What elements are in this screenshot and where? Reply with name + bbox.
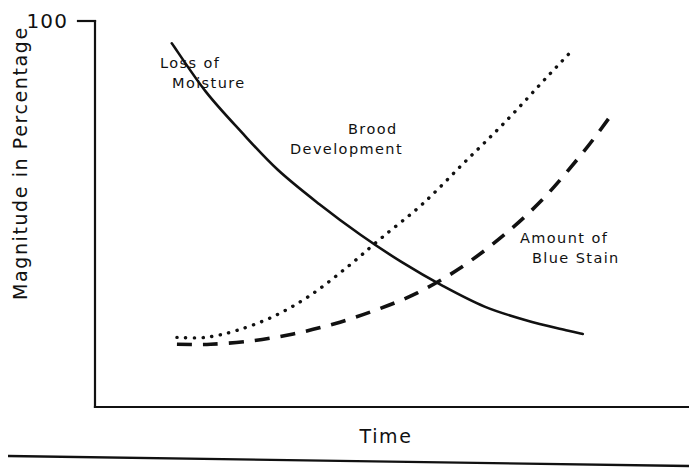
- chart-figure: 100 Loss ofMoistureBroodDevelopmentAmoun…: [0, 0, 689, 476]
- chart-axes: [78, 21, 689, 407]
- page-divider-rule: [8, 456, 689, 466]
- series-label-amount-of-blue-stain: Amount ofBlue Stain: [520, 230, 620, 266]
- series-label-line: Amount of: [520, 230, 608, 246]
- series-label-line: Brood: [348, 121, 398, 137]
- series-label-line: Blue Stain: [532, 250, 620, 266]
- chart-canvas: 100 Loss ofMoistureBroodDevelopmentAmoun…: [0, 0, 689, 476]
- chart-series-labels: Loss ofMoistureBroodDevelopmentAmount of…: [160, 55, 620, 266]
- series-label-line: Moisture: [172, 75, 246, 91]
- series-label-line: Development: [290, 141, 403, 157]
- y-axis-title: Magnitude in Percentage: [9, 26, 31, 300]
- series-label-brood-development: BroodDevelopment: [290, 121, 403, 157]
- series-label-loss-of-moisture: Loss ofMoisture: [160, 55, 246, 91]
- series-line-brood-development: [177, 50, 573, 338]
- series-label-line: Loss of: [160, 55, 220, 71]
- y-axis-tick-label-100: 100: [27, 9, 68, 33]
- x-axis-title: Time: [359, 425, 413, 447]
